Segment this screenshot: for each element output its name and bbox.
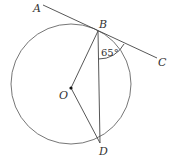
angle-label-65: 65° <box>101 47 119 58</box>
label-a: A <box>32 2 41 15</box>
label-d: D <box>98 145 108 158</box>
label-b: B <box>98 18 107 31</box>
circle-tangent-diagram: A B C O D 65° <box>0 0 176 161</box>
label-o: O <box>59 89 68 102</box>
center-point-o <box>69 86 72 89</box>
label-c: C <box>158 56 167 69</box>
tangent-line-abc <box>43 5 157 58</box>
circle <box>11 24 131 144</box>
chord-bd <box>98 31 100 143</box>
radius-od <box>71 88 100 143</box>
radius-ob <box>71 31 98 88</box>
